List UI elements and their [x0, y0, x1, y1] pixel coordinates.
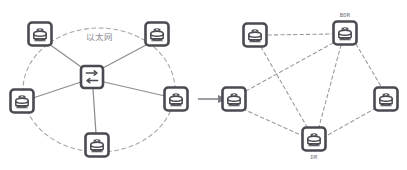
node-r-mid-right[interactable] — [375, 88, 398, 111]
diagram-canvas: 以太网 BDR — [0, 0, 407, 170]
link-rtopleft-dr — [261, 47, 307, 127]
node-l-mid-right[interactable] — [165, 88, 188, 111]
network-diagram: 以太网 BDR — [0, 0, 407, 170]
node-r-dr[interactable] — [303, 128, 326, 151]
node-l-mid-left[interactable] — [11, 90, 34, 113]
link-bdr-midright — [356, 44, 382, 88]
link-rtopleft-bdr — [268, 34, 332, 35]
link-bottom-switch — [93, 89, 96, 134]
left-cluster: 以太网 — [11, 23, 188, 157]
node-l-top-left[interactable] — [29, 23, 52, 46]
link-midleft-switch — [33, 82, 81, 98]
link-topright-switch — [101, 44, 148, 69]
link-bdr-dr — [319, 45, 341, 127]
ethernet-cloud-label: 以太网 — [86, 32, 113, 42]
node-label-bdr: BDR — [340, 12, 351, 18]
node-r-mid-left[interactable] — [223, 88, 246, 111]
right-cluster: BDR DR — [223, 12, 398, 160]
node-r-top-left[interactable] — [244, 24, 267, 47]
node-r-bdr[interactable] — [334, 22, 357, 45]
node-l-top-right[interactable] — [146, 23, 169, 46]
link-midright-switch — [104, 82, 165, 96]
link-midright-dr — [326, 108, 376, 136]
right-links — [243, 34, 382, 136]
link-bdr-midleft — [246, 43, 333, 91]
link-topleft-switch — [49, 44, 84, 69]
link-midleft-dr — [243, 109, 303, 136]
node-label-dr: DR — [310, 154, 318, 160]
node-l-bottom[interactable] — [86, 134, 109, 157]
node-switch[interactable] — [81, 66, 103, 88]
